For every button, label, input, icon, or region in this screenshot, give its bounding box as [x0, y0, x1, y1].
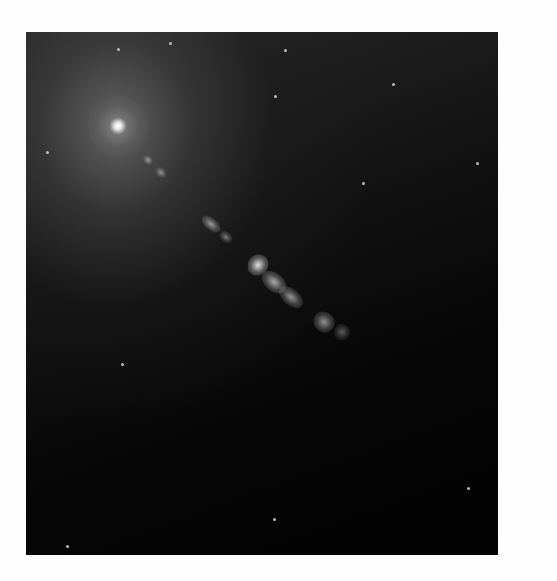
- jet-knot: [275, 282, 307, 312]
- star: [362, 182, 365, 185]
- star: [273, 518, 276, 521]
- star: [117, 48, 120, 51]
- star: [392, 83, 395, 86]
- star: [476, 162, 479, 165]
- star: [169, 42, 172, 45]
- galaxy-core: [110, 118, 126, 134]
- star: [274, 95, 277, 98]
- jet-knot: [142, 154, 155, 167]
- jet-knot: [154, 165, 169, 180]
- star: [66, 545, 69, 548]
- jet-knot: [217, 229, 234, 246]
- astronomical-image: [26, 32, 498, 555]
- star: [121, 363, 124, 366]
- star: [467, 487, 470, 490]
- star: [46, 151, 49, 154]
- star: [284, 49, 287, 52]
